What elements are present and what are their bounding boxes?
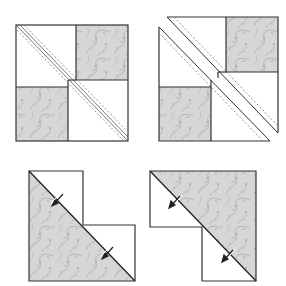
quilt-diagram (0, 0, 286, 286)
print-square-top-right (76, 25, 128, 80)
step-4-pressed-unit-b (150, 171, 256, 281)
step-2-cut-block (159, 17, 278, 141)
print-square-bottom-left (16, 87, 68, 141)
step-1-sewn-block (16, 25, 128, 141)
diagram-svg (0, 0, 286, 286)
step-3-pressed-unit-a (29, 171, 135, 281)
